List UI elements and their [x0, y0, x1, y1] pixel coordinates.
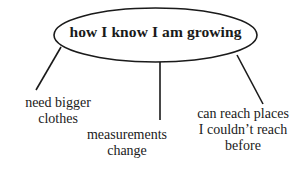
branch-text-line: measurements	[72, 127, 182, 143]
branch-text-line: change	[72, 143, 182, 159]
branch-text-line: can reach places	[183, 106, 303, 122]
branch-text-line: I couldn’t reach	[183, 122, 303, 138]
center-node-label: how I know I am growing	[54, 22, 257, 42]
branch-node-reach-places: can reach places I couldn’t reach before	[183, 106, 303, 154]
branch-node-measurements: measurements change	[72, 127, 182, 159]
connector-line-right	[237, 55, 263, 104]
branch-node-bigger-clothes: need bigger clothes	[8, 95, 108, 127]
branch-text-line: before	[183, 138, 303, 154]
connector-line-left	[36, 47, 61, 90]
branch-text-line: clothes	[8, 111, 108, 127]
branch-text-line: need bigger	[8, 95, 108, 111]
